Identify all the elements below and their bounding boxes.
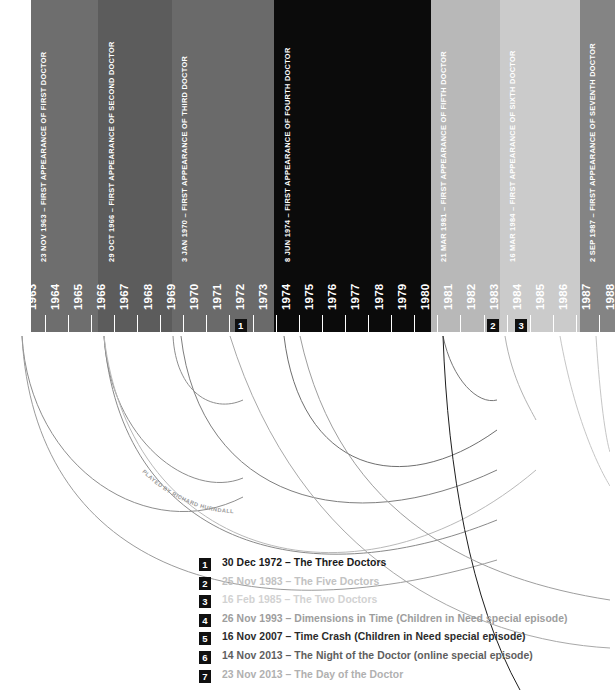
legend-item-2[interactable]: 225 Nov 1983 – The Five Doctors (199, 575, 610, 594)
arc-five-doctors-b (104, 336, 497, 554)
legend-label-5: 16 Nov 2007 – Time Crash (Children in Ne… (222, 631, 526, 642)
legend-item-4[interactable]: 426 Nov 1993 – Dimensions in Time (Child… (199, 612, 610, 631)
legend-label-7: 23 Nov 2013 – The Day of the Doctor (222, 669, 403, 680)
legend: 130 Dec 1972 – The Three Doctors225 Nov … (199, 556, 610, 686)
legend-badge-6: 6 (199, 651, 211, 664)
legend-label-3: 16 Feb 1985 – The Two Doctors (222, 594, 377, 605)
legend-label-1: 30 Dec 1972 – The Three Doctors (222, 557, 386, 568)
legend-item-6[interactable]: 614 Nov 2013 – The Night of the Doctor (… (199, 649, 610, 668)
arc-later-special-c (596, 336, 610, 452)
legend-label-6: 14 Nov 2013 – The Night of the Doctor (o… (222, 650, 533, 661)
legend-badge-1: 1 (199, 558, 211, 571)
legend-label-2: 25 Nov 1983 – The Five Doctors (222, 576, 379, 587)
legend-label-4: 26 Nov 1993 – Dimensions in Time (Childr… (222, 613, 568, 624)
legend-badge-4: 4 (199, 614, 211, 627)
legend-item-5[interactable]: 516 Nov 2007 – Time Crash (Children in N… (199, 630, 610, 649)
arc-two-doctors-b (505, 336, 536, 420)
legend-item-7[interactable]: 723 Nov 2013 – The Day of the Doctor (199, 668, 610, 687)
arc-five-doctors-e (443, 336, 497, 401)
arc-two-doctors-a (104, 336, 536, 553)
legend-badge-2: 2 (199, 577, 211, 590)
arc-three-doctors-b (104, 336, 243, 483)
legend-badge-7: 7 (199, 670, 211, 683)
arc-three-doctors-c (173, 336, 243, 404)
arc-five-doctors-c (181, 336, 497, 503)
legend-item-1[interactable]: 130 Dec 1972 – The Three Doctors (199, 556, 610, 575)
legend-item-3[interactable]: 316 Feb 1985 – The Two Doctors (199, 593, 610, 612)
legend-badge-5: 5 (199, 632, 211, 645)
arc-five-doctors-d (284, 336, 497, 467)
legend-badge-3: 3 (199, 595, 211, 608)
